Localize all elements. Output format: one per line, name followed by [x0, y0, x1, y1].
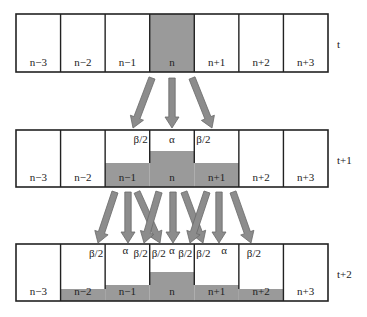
cell-label: n+2: [253, 171, 270, 183]
alpha-label: α: [122, 244, 128, 256]
cell-label: n−2: [74, 171, 91, 183]
transition-arrow-icon: [95, 191, 118, 243]
cell-label: n: [169, 56, 175, 68]
cell-label: n+3: [297, 171, 315, 183]
transition-arrow-icon: [121, 192, 135, 243]
rows-layer: n−3n−2n−1nn+1n+2n+3tn−3n−2n−1nn+1n+2n+3β…: [16, 14, 352, 301]
cell-label: n−2: [74, 56, 91, 68]
alpha-label: α: [221, 244, 227, 256]
beta-half-label: β/2: [196, 133, 210, 145]
time-step-label: t+2: [337, 268, 352, 280]
beta-half-label: β/2: [247, 247, 261, 259]
alpha-label: α: [169, 133, 175, 145]
beta-half-label: β/2: [196, 247, 210, 259]
transition-arrow-icon: [189, 77, 214, 128]
transition-arrow-icon: [165, 78, 179, 128]
cell-label: n+3: [297, 285, 315, 297]
transition-arrow-icon: [230, 191, 254, 243]
beta-half-label: β/2: [178, 247, 192, 259]
cell-label: n: [169, 285, 175, 297]
cell-label: n−2: [74, 285, 91, 297]
cell-label: n+1: [208, 285, 225, 297]
beta-half-label: β/2: [134, 247, 148, 259]
spreading-diagram: n−3n−2n−1nn+1n+2n+3tn−3n−2n−1nn+1n+2n+3β…: [0, 0, 367, 317]
time-row-0: n−3n−2n−1nn+1n+2n+3t: [16, 14, 340, 72]
cell-label: n+1: [208, 56, 225, 68]
cell-label: n: [169, 171, 175, 183]
beta-half-label: β/2: [152, 247, 166, 259]
transition-arrow-icon: [130, 77, 155, 128]
cell-label: n−1: [119, 171, 136, 183]
beta-half-label: β/2: [134, 133, 148, 145]
cell-label: n−3: [30, 285, 48, 297]
cell-label: n+3: [297, 56, 315, 68]
cell-label: n+2: [253, 285, 270, 297]
cell-label: n+1: [208, 171, 225, 183]
alpha-label: α: [169, 244, 175, 256]
cell-label: n−3: [30, 171, 48, 183]
beta-half-label: β/2: [89, 247, 103, 259]
cell-label: n−1: [119, 285, 136, 297]
cell-label: n+2: [253, 56, 270, 68]
cell-label: n−1: [119, 56, 136, 68]
time-step-label: t: [337, 38, 340, 50]
transition-arrow-icon: [212, 192, 226, 243]
transition-arrow-icon: [166, 192, 180, 243]
time-row-1: n−3n−2n−1nn+1n+2n+3β/2αβ/2t+1: [16, 130, 352, 187]
time-row-2: n−3n−2n−1nn+1n+2n+3β/2αβ/2β/2αβ/2β/2αβ/2…: [16, 244, 352, 301]
time-step-label: t+1: [337, 154, 352, 166]
cell-label: n−3: [30, 56, 48, 68]
